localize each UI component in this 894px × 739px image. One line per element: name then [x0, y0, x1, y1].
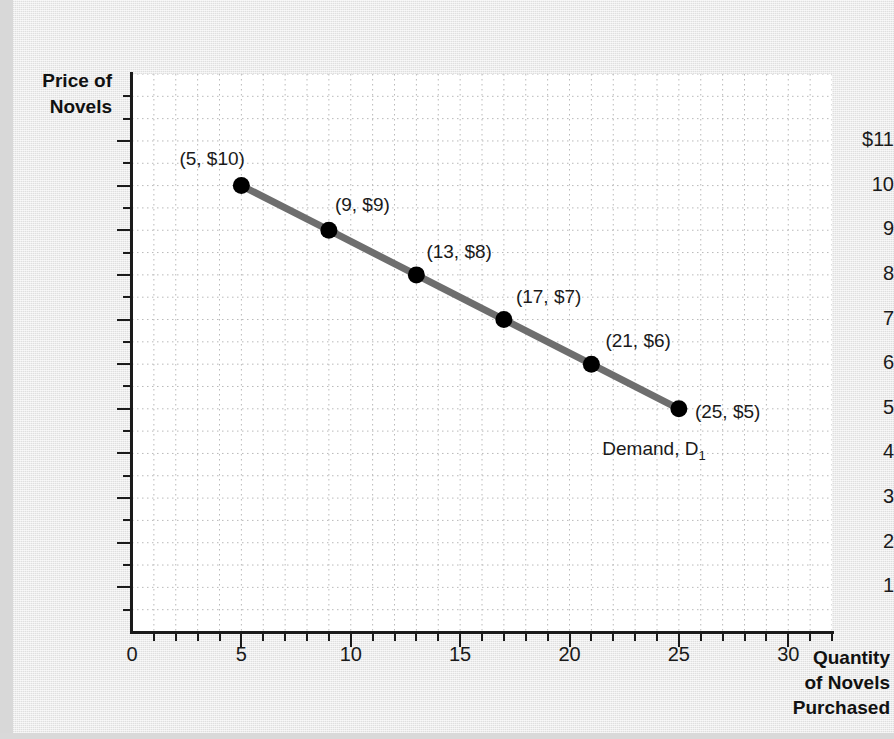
y-tick-minor [123, 519, 132, 521]
x-tick-minor [219, 632, 221, 641]
y-tick-label: $11 [782, 128, 894, 151]
y-tick-minor [123, 609, 132, 611]
y-axis-title: Price ofNovels [0, 68, 112, 120]
data-point-label: (17, $7) [516, 286, 581, 308]
x-tick-minor [634, 632, 636, 641]
demand-curve-label: Demand, D1 [602, 438, 705, 463]
x-tick-minor [481, 632, 483, 641]
y-tick-minor [123, 118, 132, 120]
x-tick-minor [415, 632, 417, 641]
y-tick-major [117, 363, 132, 365]
data-point-label: (9, $9) [335, 194, 390, 216]
y-tick-label: 10 [782, 173, 894, 196]
y-tick-label: 7 [782, 307, 894, 330]
x-tick-minor [809, 632, 811, 641]
x-tick-label: 20 [540, 643, 600, 666]
y-tick-minor [123, 207, 132, 209]
data-point-label: (5, $10) [179, 148, 244, 170]
demand-label-subscript: 1 [698, 448, 705, 463]
x-tick-minor [612, 632, 614, 641]
x-tick-label: 15 [430, 643, 490, 666]
x-tick-minor [306, 632, 308, 641]
y-tick-minor [123, 95, 132, 97]
y-tick-major [117, 229, 132, 231]
y-tick-label: 5 [782, 396, 894, 419]
x-axis-title-line: of Novels [760, 670, 890, 695]
data-point-label: (13, $8) [426, 241, 491, 263]
x-tick-minor [590, 632, 592, 641]
x-tick-minor [437, 632, 439, 641]
x-tick-minor [503, 632, 505, 641]
x-tick-label: 5 [211, 643, 271, 666]
y-tick-major [117, 452, 132, 454]
y-tick-minor [123, 564, 132, 566]
data-point-label: (25, $5) [695, 401, 760, 423]
y-tick-minor [123, 341, 132, 343]
origin-tick-label: 0 [102, 643, 162, 666]
y-tick-label: 9 [782, 217, 894, 240]
y-tick-label: 8 [782, 262, 894, 285]
y-tick-label: 2 [782, 530, 894, 553]
x-tick-minor [547, 632, 549, 641]
y-tick-label: 1 [782, 574, 894, 597]
x-tick-label: 10 [321, 643, 381, 666]
y-axis-title-line: Price of [0, 68, 112, 94]
y-tick-major [117, 319, 132, 321]
y-tick-label: 3 [782, 485, 894, 508]
x-tick-minor [831, 632, 833, 641]
y-tick-major [117, 408, 132, 410]
y-tick-major [117, 274, 132, 276]
y-axis-title-line: Novels [0, 94, 112, 120]
x-tick-minor [284, 632, 286, 641]
x-tick-minor [262, 632, 264, 641]
x-tick-minor [394, 632, 396, 641]
y-tick-minor [123, 430, 132, 432]
x-tick-minor [153, 632, 155, 641]
x-tick-minor [744, 632, 746, 641]
y-tick-minor [123, 252, 132, 254]
chart-page: 12345678910$11 51015202530 Price ofNovel… [0, 0, 894, 739]
y-tick-minor [123, 385, 132, 387]
demand-label-text: Demand, D [602, 438, 698, 459]
y-tick-major [117, 140, 132, 142]
x-tick-minor [372, 632, 374, 641]
page-bottom-edge [0, 733, 894, 739]
x-axis-title-line: Quantity [760, 645, 890, 670]
y-tick-minor [123, 162, 132, 164]
x-tick-minor [656, 632, 658, 641]
x-axis-title: Quantityof NovelsPurchased [760, 645, 890, 720]
y-tick-major [117, 586, 132, 588]
y-tick-major [117, 185, 132, 187]
x-tick-minor [765, 632, 767, 641]
y-tick-major [117, 497, 132, 499]
y-tick-minor [123, 475, 132, 477]
y-tick-label: 6 [782, 351, 894, 374]
y-axis-line [130, 72, 133, 634]
x-tick-minor [722, 632, 724, 641]
x-axis-title-line: Purchased [760, 695, 890, 720]
y-tick-major [117, 542, 132, 544]
x-tick-minor [525, 632, 527, 641]
x-tick-minor [175, 632, 177, 641]
y-tick-label: 4 [782, 440, 894, 463]
x-tick-label: 25 [649, 643, 709, 666]
x-tick-minor [328, 632, 330, 641]
x-tick-minor [700, 632, 702, 641]
x-tick-minor [197, 632, 199, 641]
data-point-label: (21, $6) [605, 330, 670, 352]
y-tick-minor [123, 296, 132, 298]
